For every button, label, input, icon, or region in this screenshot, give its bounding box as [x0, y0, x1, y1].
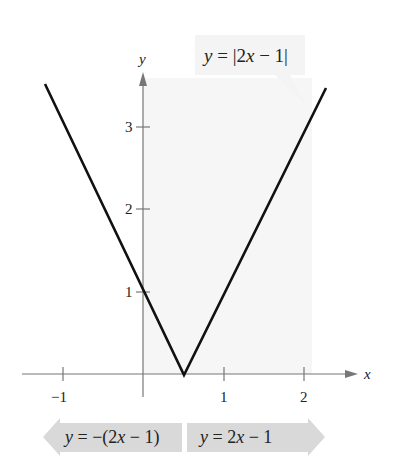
- y-axis-label: y: [137, 51, 146, 67]
- shaded-region: [143, 78, 312, 374]
- y-tick-label-2: 2: [125, 201, 133, 217]
- x-tick-label-1: 1: [220, 389, 228, 405]
- chart: x y −1 1 2 1 2 3 y = |2x − 1| y = −(2x −…: [0, 0, 397, 469]
- x-tick-label-2: 2: [300, 389, 308, 405]
- y-tick-label-1: 1: [125, 284, 133, 300]
- left-piece-equation: y = −(2x − 1): [63, 427, 159, 448]
- x-axis-arrow-icon: [345, 370, 358, 378]
- x-axis-label: x: [363, 366, 371, 382]
- equation-label: y = |2x − 1|: [202, 45, 288, 66]
- y-tick-label-3: 3: [125, 119, 133, 135]
- x-tick-label-neg1: −1: [51, 389, 67, 405]
- right-piece-equation: y = 2x − 1: [198, 427, 272, 447]
